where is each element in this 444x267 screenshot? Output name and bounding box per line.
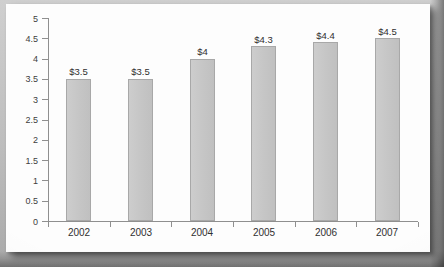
y-axis-tick-label: 5 <box>33 14 38 23</box>
x-axis-category-label: 2006 <box>295 228 357 238</box>
bar: $4.5 <box>375 38 400 221</box>
y-axis-tick-label: 3 <box>33 95 38 104</box>
y-axis-tick-label: 3.5 <box>25 75 38 84</box>
y-axis-tick-label: 1.5 <box>25 156 38 165</box>
bar: $4.4 <box>313 42 338 221</box>
y-axis-tick-label: 0 <box>33 217 38 226</box>
x-axis-tick <box>418 222 419 227</box>
bar-chart-plot-area: 00.511.522.533.544.55 $3.5$3.5$4$4.3$4.4… <box>6 4 430 252</box>
scan-edge-shadow-bottom <box>0 251 444 267</box>
bar-value-label: $4.4 <box>316 31 335 41</box>
scanned-chart-image: 00.511.522.533.544.55 $3.5$3.5$4$4.3$4.4… <box>0 0 444 267</box>
x-axis-category-label: 2005 <box>233 228 295 238</box>
y-axis-tick: 0.5 <box>42 201 48 202</box>
y-axis-tick: 2 <box>42 140 48 141</box>
y-axis-tick: 1.5 <box>42 160 48 161</box>
x-axis-category-label: 2002 <box>48 228 110 238</box>
y-axis-tick-label: 1 <box>33 176 38 185</box>
x-axis-category-label: 2007 <box>356 228 418 238</box>
y-axis-tick: 3 <box>42 99 48 100</box>
bar: $3.5 <box>128 79 153 221</box>
bar-value-label: $4.5 <box>378 27 397 37</box>
y-axis-tick: 4.5 <box>42 38 48 39</box>
bar-value-label: $4.3 <box>254 35 273 45</box>
x-axis-category-label: 2003 <box>110 228 172 238</box>
y-axis-tick: 3.5 <box>42 79 48 80</box>
y-axis-line <box>48 18 49 221</box>
y-axis-tick: 1 <box>42 180 48 181</box>
x-axis-tick <box>233 222 234 227</box>
y-axis-tick: 5 <box>42 18 48 19</box>
bar: $4 <box>190 59 215 221</box>
x-axis-tick <box>295 222 296 227</box>
y-axis-tick: 4 <box>42 59 48 60</box>
x-axis-tick <box>110 222 111 227</box>
bar-value-label: $3.5 <box>131 67 150 77</box>
bar: $4.3 <box>251 46 276 221</box>
x-axis-tick <box>171 222 172 227</box>
y-axis-tick: 2.5 <box>42 120 48 121</box>
x-axis-tick <box>356 222 357 227</box>
x-axis-category-label: 2004 <box>171 228 233 238</box>
y-axis-tick-label: 2.5 <box>25 116 38 125</box>
y-axis-tick-label: 4.5 <box>25 34 38 43</box>
y-axis-tick-label: 0.5 <box>25 197 38 206</box>
bar: $3.5 <box>66 79 91 221</box>
bar-value-label: $4 <box>197 47 208 57</box>
chart-card: 00.511.522.533.544.55 $3.5$3.5$4$4.3$4.4… <box>6 4 430 252</box>
y-axis-tick-label: 4 <box>33 55 38 64</box>
bar-value-label: $3.5 <box>69 67 88 77</box>
scan-edge-shadow-right <box>430 0 444 267</box>
y-axis-tick-label: 2 <box>33 136 38 145</box>
x-axis-tick <box>48 222 49 227</box>
